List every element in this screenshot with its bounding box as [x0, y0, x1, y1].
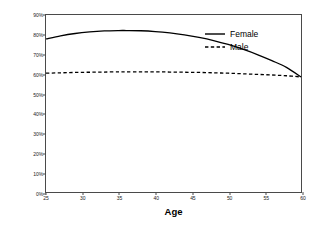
- x-axis-tick-mark: [229, 192, 230, 195]
- y-axis-tick-label: 30%: [33, 131, 43, 137]
- chart-legend: FemaleMale: [204, 27, 288, 53]
- y-axis-tick-label: 60%: [33, 72, 43, 78]
- y-axis-tick-mark: [43, 154, 46, 155]
- x-axis-tick-label: 50: [227, 195, 232, 201]
- legend-label: Male: [230, 42, 248, 52]
- y-axis-tick-mark: [43, 54, 46, 55]
- x-axis-tick-label: 30: [80, 195, 85, 201]
- y-axis-tick-label: 40%: [33, 111, 43, 117]
- y-axis-tick-label: 50%: [33, 92, 43, 98]
- y-axis-tick-label: 90%: [33, 12, 43, 18]
- y-axis-tick-label: 0%: [36, 191, 43, 197]
- x-axis-tick-mark: [266, 192, 267, 195]
- y-axis-tick-label: 80%: [33, 32, 43, 38]
- x-axis-tick-mark: [156, 192, 157, 195]
- x-axis-tick-label: 55: [264, 195, 269, 201]
- y-axis-tick-mark: [43, 174, 46, 175]
- y-axis-tick-mark: [43, 15, 46, 16]
- y-axis-tick-label: 70%: [33, 52, 43, 58]
- x-axis-tick-mark: [46, 192, 47, 195]
- legend-line-icon: [204, 29, 226, 39]
- x-axis-tick-mark: [192, 192, 193, 195]
- headache-prevalence-chart: Adjusted Prevalence, Headache FemaleMale…: [0, 0, 318, 229]
- legend-item-female[interactable]: Female: [204, 27, 288, 40]
- y-axis-tick-mark: [43, 94, 46, 95]
- legend-line-icon: [204, 42, 226, 52]
- x-axis-tick-label: 45: [190, 195, 195, 201]
- y-axis-tick-mark: [43, 134, 46, 135]
- x-axis-tick-label: 25: [43, 195, 48, 201]
- plot-area: FemaleMale 0%10%20%30%40%50%60%70%80%90%…: [45, 14, 302, 193]
- legend-item-male[interactable]: Male: [204, 40, 288, 53]
- y-axis-tick-mark: [43, 74, 46, 75]
- y-axis-tick-label: 10%: [33, 171, 43, 177]
- x-axis-tick-label: 60: [300, 195, 305, 201]
- x-axis-title: Age: [45, 206, 302, 217]
- x-axis-tick-label: 35: [117, 195, 122, 201]
- x-axis-tick-label: 40: [153, 195, 158, 201]
- x-axis-tick-mark: [303, 192, 304, 195]
- series-line-male: [46, 72, 301, 77]
- y-axis-tick-mark: [43, 114, 46, 115]
- x-axis-tick-mark: [119, 192, 120, 195]
- legend-label: Female: [230, 29, 258, 39]
- x-axis-tick-mark: [82, 192, 83, 195]
- y-axis-tick-label: 20%: [33, 151, 43, 157]
- y-axis-tick-mark: [43, 34, 46, 35]
